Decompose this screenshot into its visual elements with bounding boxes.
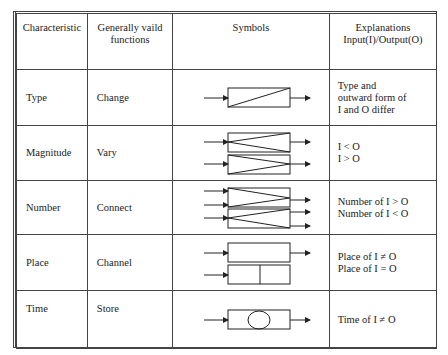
header-explanations-line1: Explanations [355,22,410,33]
explanation-line: I < O [338,141,360,152]
characteristic-cell: Number [17,181,88,235]
characteristic-cell: Type [17,70,88,126]
box-connect-icon [176,184,326,232]
characteristic-cell: Place [17,235,88,291]
symbol-cell [173,70,329,126]
symbol-cell [173,235,329,291]
function-cell: Change [87,70,172,126]
characteristic-cell: Time [17,291,88,349]
explanation-cell: I < OI > O [329,126,436,181]
symbol-cell [173,291,329,349]
function-symbols-table: Characteristic Generally vaildfunctions … [16,13,437,349]
box-diagonal-icon [176,78,326,118]
explanation-cell: Place of I ≠ OPlace of I = O [329,235,436,291]
header-functions-line1: Generally vaild [98,22,163,33]
table-row: Magnitude Vary I < OI > O [17,126,437,181]
explanation-line: I and O differ [338,104,395,115]
box-vary-icon [176,128,326,178]
explanation-line: Number of I > O [338,196,409,207]
header-functions: Generally vaildfunctions [87,14,172,70]
symbol-cell [173,126,329,181]
characteristic-cell: Magnitude [17,126,88,181]
function-cell: Connect [87,181,172,235]
function-cell: Store [87,291,172,349]
function-cell: Channel [87,235,172,291]
table-row: Number Connect Number of I > ONumber of … [17,181,437,235]
explanation-line: Number of I < O [338,208,409,219]
explanation-cell: Number of I > ONumber of I < O [329,181,436,235]
explanation-cell: Type andoutward form ofI and O differ [329,70,436,126]
header-explanations: ExplanationsInput(I)/Output(O) [329,14,436,70]
function-cell: Vary [87,126,172,181]
explanation-cell: Time of I ≠ O [329,291,436,349]
explanation-line: outward form of [338,92,407,103]
header-symbols: Symbols [173,14,329,70]
header-explanations-line2: Input(I)/Output(O) [343,34,422,45]
explanation-line: Type and [338,80,377,91]
table-row: Type Change Type andoutward form ofI and… [17,70,437,126]
explanation-line: Place of I ≠ O [338,251,397,262]
explanation-line: Time of I ≠ O [338,314,396,325]
explanation-line: I > O [338,153,360,164]
table-row: Place Channel Place of I ≠ OPlace of I =… [17,235,437,291]
header-row: Characteristic Generally vaildfunctions … [17,14,437,70]
box-store-icon [176,305,326,335]
header-characteristic: Characteristic [17,14,88,70]
table-row: Time Store Time of I ≠ O [17,291,437,349]
symbol-cell [173,181,329,235]
explanation-line: Place of I = O [338,263,397,274]
header-functions-line2: functions [111,34,150,45]
box-channel-icon [176,239,326,287]
